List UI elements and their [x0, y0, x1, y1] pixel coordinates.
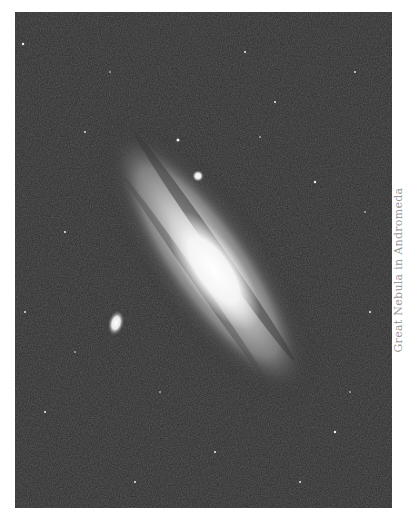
galaxy-photograph [15, 12, 392, 508]
andromeda-galaxy-image [15, 12, 392, 508]
satellite-galaxy-m32 [192, 170, 204, 182]
figure-caption: Great Nebula in Andromeda [392, 188, 405, 353]
